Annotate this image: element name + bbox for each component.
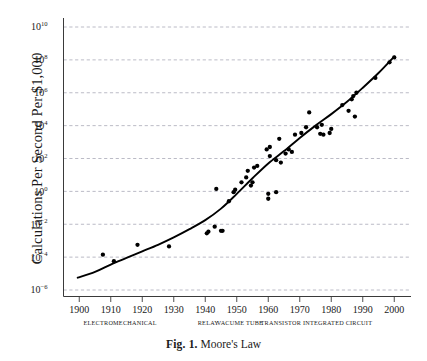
axis-lines — [64, 18, 412, 297]
era-label-4: INTEGRATED CIRCUIT — [303, 319, 372, 326]
data-point-0-46 — [353, 114, 357, 118]
x-axis-ticks: 1900191019201930194019501960197019801990… — [69, 297, 404, 315]
gridlines — [64, 27, 411, 290]
data-point-0-24 — [268, 145, 272, 149]
data-point-0-7 — [214, 187, 218, 191]
figure-caption: Fig. 1. Moore's Law — [0, 338, 427, 350]
data-point-0-40 — [328, 131, 332, 135]
data-point-0-41 — [329, 127, 333, 131]
figure-caption-text: Moore's Law — [201, 338, 262, 350]
data-point-0-45 — [351, 94, 355, 98]
data-point-0-14 — [244, 175, 248, 179]
x-tick-label-8: 1980 — [321, 304, 341, 315]
data-point-0-49 — [387, 60, 391, 64]
x-tick-label-4: 1940 — [195, 304, 215, 315]
data-point-0-21 — [266, 192, 270, 196]
era-band-labels: ELECTROMECHANICALRELAYVACUME TUBETRANSIS… — [84, 319, 373, 326]
data-point-0-17 — [250, 180, 254, 184]
x-tick-label-0: 1900 — [69, 304, 89, 315]
data-point-0-47 — [354, 91, 358, 95]
y-axis-title: Calculations Per Second Per $1,000 — [29, 34, 46, 284]
moores-law-chart: 101010810610410210010−210−410−6 19001910… — [0, 0, 427, 361]
data-points — [101, 55, 397, 263]
data-point-0-32 — [293, 133, 297, 137]
data-point-0-23 — [268, 154, 272, 158]
data-point-0-10 — [227, 199, 231, 203]
data-point-0-19 — [255, 164, 259, 168]
data-point-0-36 — [315, 125, 319, 129]
data-point-0-2 — [135, 243, 139, 247]
era-label-2: VACUME TUBE — [217, 319, 263, 326]
x-tick-label-3: 1930 — [164, 304, 184, 315]
y-tick-label-8: 10−6 — [30, 283, 48, 295]
x-tick-label-5: 1950 — [227, 304, 247, 315]
data-point-0-48 — [373, 76, 377, 80]
data-point-0-31 — [290, 150, 294, 154]
trend-curve — [78, 57, 395, 278]
x-tick-label-6: 1960 — [258, 304, 278, 315]
x-tick-label-7: 1970 — [290, 304, 310, 315]
data-point-0-39 — [321, 133, 325, 137]
data-point-0-29 — [283, 151, 287, 155]
x-tick-label-2: 1920 — [132, 304, 152, 315]
data-point-0-5 — [206, 230, 210, 234]
trend-curve-path — [78, 57, 395, 278]
data-point-0-26 — [274, 158, 278, 162]
data-point-0-1 — [112, 259, 116, 263]
data-point-0-13 — [239, 180, 243, 184]
data-point-0-35 — [307, 110, 311, 114]
x-tick-label-10: 2000 — [384, 304, 404, 315]
data-point-0-3 — [167, 244, 171, 248]
data-point-0-42 — [340, 103, 344, 107]
data-point-0-43 — [346, 109, 350, 113]
data-point-0-25 — [274, 190, 278, 194]
y-tick-label-0: 1010 — [31, 20, 48, 32]
x-tick-label-9: 1990 — [353, 304, 373, 315]
data-point-0-6 — [213, 225, 217, 229]
data-point-0-34 — [304, 125, 308, 129]
x-tick-label-1: 1910 — [101, 304, 121, 315]
data-point-0-33 — [299, 131, 303, 135]
figure-container: 101010810610410210010−210−410−6 19001910… — [0, 0, 427, 361]
data-point-0-12 — [233, 188, 237, 192]
era-label-0: ELECTROMECHANICAL — [84, 319, 157, 326]
data-point-0-22 — [266, 197, 270, 201]
data-point-0-50 — [392, 55, 396, 59]
data-point-0-0 — [101, 253, 105, 257]
era-label-3: TRANSISTOR — [261, 319, 302, 326]
data-point-0-15 — [246, 169, 250, 173]
figure-caption-label: Fig. 1. — [166, 338, 198, 350]
data-point-0-38 — [320, 123, 324, 127]
data-point-0-28 — [279, 160, 283, 164]
data-point-0-27 — [277, 137, 281, 141]
data-point-0-9 — [220, 229, 224, 233]
